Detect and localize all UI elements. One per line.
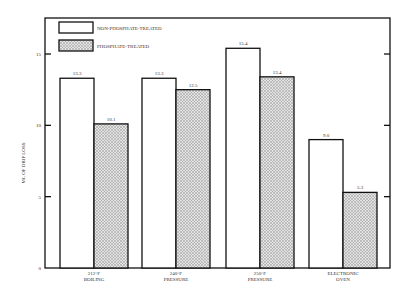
x-tick-label: ELECTRONIC <box>327 271 359 276</box>
bar-value-label: 13.3 <box>155 71 164 76</box>
legend-swatch-phosphate <box>59 40 93 51</box>
bar <box>343 192 377 268</box>
bar-value-label: 15.4 <box>239 41 248 46</box>
bar <box>226 48 260 268</box>
y-tick-label: 5 <box>39 195 42 200</box>
bar <box>260 77 294 268</box>
x-axis: 212°FBOILING240°FPRESSURE250°FPRESSUREEL… <box>84 271 360 282</box>
bar-value-label: 12.5 <box>189 83 198 88</box>
bar <box>94 124 128 268</box>
bar-value-label: 5.3 <box>357 185 364 190</box>
bar <box>60 78 94 268</box>
bar-value-label: 9.0 <box>323 133 330 138</box>
bar-chart: 13.313.315.49.010.112.513.45.3 051015 21… <box>0 0 411 295</box>
x-tick-label: BOILING <box>84 277 105 282</box>
y-tick-label: 15 <box>36 52 42 57</box>
legend-label: PHOSPHATE-TREATED <box>97 44 150 49</box>
legend-swatch-non-phosphate <box>59 22 93 33</box>
x-tick-label: PRESSURE <box>164 277 189 282</box>
bar <box>176 90 210 268</box>
bars: 13.313.315.49.010.112.513.45.3 <box>60 41 377 268</box>
x-tick-label: OVEN <box>336 277 350 282</box>
y-axis-label: ML OF DRIP LOSS <box>21 142 26 183</box>
x-tick-label: 250°F <box>254 271 266 276</box>
bar <box>142 78 176 268</box>
bar-value-label: 13.4 <box>273 70 282 75</box>
x-tick-label: 240°F <box>170 271 182 276</box>
bar <box>309 140 343 268</box>
bar-value-label: 13.3 <box>73 71 82 76</box>
y-tick-label: 0 <box>39 266 42 271</box>
x-tick-label: PRESSURE <box>248 277 273 282</box>
y-tick-label: 10 <box>36 123 42 128</box>
legend-label: NON-PHOSPHATE-TREATED <box>97 26 162 31</box>
x-tick-label: 212°F <box>88 271 100 276</box>
legend: NON-PHOSPHATE-TREATEDPHOSPHATE-TREATED <box>59 22 162 51</box>
bar-value-label: 10.1 <box>107 117 116 122</box>
